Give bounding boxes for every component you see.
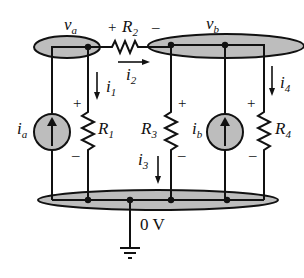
label-r2: R2 bbox=[121, 17, 138, 38]
label-vb: vb bbox=[206, 14, 220, 35]
ground-dot-4 bbox=[224, 197, 230, 203]
ground-dot-3 bbox=[168, 197, 174, 203]
r2-plus: + bbox=[108, 19, 116, 35]
current-source-ia bbox=[34, 114, 70, 150]
label-i1: i1 bbox=[106, 77, 116, 98]
circuit-diagram: va vb 0 V + R2 – i2 i1 + R1 – + R3 – i3 … bbox=[0, 0, 304, 278]
r2-minus: – bbox=[151, 19, 160, 35]
r4-plus: + bbox=[247, 95, 255, 111]
r3-resistor bbox=[165, 108, 177, 152]
ground-dot-1 bbox=[85, 197, 91, 203]
label-r1: R1 bbox=[97, 119, 114, 140]
r1-plus: + bbox=[73, 95, 81, 111]
r3-minus: – bbox=[177, 147, 186, 163]
label-i4: i4 bbox=[280, 73, 291, 94]
label-ia: ia bbox=[17, 119, 28, 140]
node-a-dot bbox=[85, 44, 91, 50]
node-b-dot-mid bbox=[222, 42, 228, 48]
r3-plus: + bbox=[178, 95, 186, 111]
label-r3: R3 bbox=[140, 119, 157, 140]
label-i3: i3 bbox=[138, 150, 149, 171]
label-va: va bbox=[64, 15, 78, 36]
r4-resistor bbox=[258, 108, 270, 152]
label-ib: ib bbox=[192, 119, 203, 140]
label-ground-voltage: 0 V bbox=[140, 215, 165, 234]
r4-minus: – bbox=[248, 147, 257, 163]
r1-minus: – bbox=[71, 147, 80, 163]
current-source-ib bbox=[207, 114, 243, 150]
label-r4: R4 bbox=[274, 119, 291, 140]
node-b-dot-left bbox=[168, 42, 174, 48]
r1-resistor bbox=[82, 108, 94, 152]
label-i2: i2 bbox=[126, 65, 137, 86]
